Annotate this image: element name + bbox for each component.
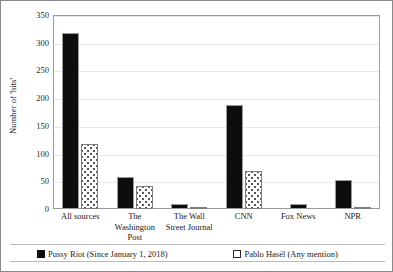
bar[interactable] bbox=[136, 186, 153, 209]
bar[interactable] bbox=[190, 207, 207, 209]
y-axis-tick-labels: 350300250200150100500 bbox=[15, 15, 49, 209]
bar[interactable] bbox=[226, 105, 243, 209]
y-tick-label: 350 bbox=[23, 11, 49, 20]
bar-group bbox=[217, 15, 272, 209]
legend-label: Pablo Hasél (Any mention) bbox=[244, 249, 337, 259]
legend-divider-top bbox=[10, 244, 385, 245]
x-tick-label: CNN bbox=[217, 211, 272, 243]
y-tick-label: 150 bbox=[23, 122, 49, 131]
legend-swatch-solid-icon bbox=[37, 250, 45, 258]
bar[interactable] bbox=[335, 180, 352, 209]
bar[interactable] bbox=[171, 204, 188, 209]
bar-group bbox=[162, 15, 217, 209]
x-tick-label: Fox News bbox=[271, 211, 326, 243]
bar-group bbox=[271, 15, 326, 209]
legend-swatch-dotted-icon bbox=[233, 250, 241, 258]
legend-divider-bottom bbox=[10, 261, 385, 262]
x-axis-tick-labels: All sourcesThe Washington PostThe Wall S… bbox=[53, 211, 380, 243]
y-tick-label: 250 bbox=[23, 66, 49, 75]
x-tick-label: The Washington Post bbox=[108, 211, 163, 243]
bar[interactable] bbox=[354, 207, 371, 209]
legend-item[interactable]: Pablo Hasél (Any mention) bbox=[233, 249, 337, 259]
y-tick-label: 200 bbox=[23, 94, 49, 103]
bar[interactable] bbox=[81, 144, 98, 209]
bar[interactable] bbox=[290, 204, 307, 209]
bar-group bbox=[108, 15, 163, 209]
y-tick-label: 100 bbox=[23, 150, 49, 159]
y-tick-label: 50 bbox=[23, 177, 49, 186]
x-tick-label: The Wall Street Journal bbox=[162, 211, 217, 243]
bar[interactable] bbox=[245, 171, 262, 209]
bar-group bbox=[326, 15, 381, 209]
bar-groups bbox=[53, 15, 380, 209]
bar[interactable] bbox=[62, 33, 79, 209]
y-tick-label: 300 bbox=[23, 39, 49, 48]
chart-figure: Number of 'hits' 350300250200150100500 A… bbox=[0, 0, 393, 272]
legend-item[interactable]: Pussy Riot (Since January 1, 2018) bbox=[37, 249, 167, 259]
x-tick-label: NPR bbox=[326, 211, 381, 243]
legend-label: Pussy Riot (Since January 1, 2018) bbox=[48, 249, 167, 259]
bar[interactable] bbox=[117, 177, 134, 209]
bar-group bbox=[53, 15, 108, 209]
y-tick-label: 0 bbox=[23, 205, 49, 214]
chart-legend: Pussy Riot (Since January 1, 2018)Pablo … bbox=[10, 246, 385, 261]
x-tick-label: All sources bbox=[53, 211, 108, 243]
